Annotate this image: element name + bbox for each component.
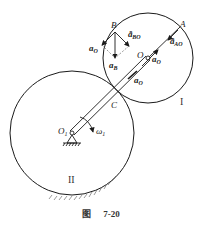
omega-label: ω1 <box>96 127 105 137</box>
point-label-o1: O1 <box>58 127 68 137</box>
label-aO-left: aO <box>89 44 98 54</box>
figure-caption: 图 7-20 <box>82 207 120 220</box>
point-label-b: B <box>111 21 117 30</box>
label-aB: aB <box>109 61 118 71</box>
crank-arm-edge <box>74 60 150 135</box>
gear-i-label: I <box>180 96 183 107</box>
crank-arm-edge <box>70 56 146 131</box>
point-label-o: O <box>137 51 144 60</box>
point-label-c: C <box>111 101 117 110</box>
label-aO-lower: aO <box>134 76 143 86</box>
label-aAO-n: anAO <box>170 37 183 47</box>
label-aBO-n: anBO <box>128 30 141 40</box>
dashed-construction <box>115 46 129 58</box>
caption-prefix: 图 <box>82 209 91 219</box>
mechanism-diagram <box>0 0 203 228</box>
label-aO-right: aO <box>152 55 161 65</box>
ground-hatching-gear-ii <box>49 176 116 200</box>
gear-ii-label: II <box>68 174 75 185</box>
vector-aO-left <box>102 32 115 45</box>
caption-number: 7-20 <box>103 209 120 219</box>
vector-aBO-n <box>115 32 129 46</box>
point-label-a: A <box>180 20 186 29</box>
